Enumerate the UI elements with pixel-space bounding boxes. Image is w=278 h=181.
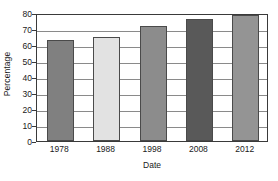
x-axis-title: Date: [36, 160, 268, 170]
x-tick-label-2012: 2012: [235, 145, 254, 154]
bar-1998: [140, 26, 167, 141]
bar-2008: [186, 19, 213, 141]
x-tick-label-1998: 1998: [143, 145, 162, 154]
y-tick-mark-0: [32, 142, 36, 143]
x-axis-tick-labels: 19781988199820082012: [36, 145, 268, 159]
y-axis-title: Percentage: [0, 0, 14, 148]
x-tick-label-1988: 1988: [96, 145, 115, 154]
x-tick-label-1978: 1978: [50, 145, 69, 154]
bars-layer: [37, 15, 267, 141]
x-tick-label-2008: 2008: [189, 145, 208, 154]
bar-1978: [47, 40, 74, 141]
bar-1988: [93, 37, 120, 141]
bar-chart-figure: Percentage 01020304050607080 19781988199…: [0, 0, 278, 181]
plot-area: [36, 14, 268, 142]
bar-2012: [232, 15, 259, 141]
y-axis-title-text: Percentage: [2, 52, 12, 96]
